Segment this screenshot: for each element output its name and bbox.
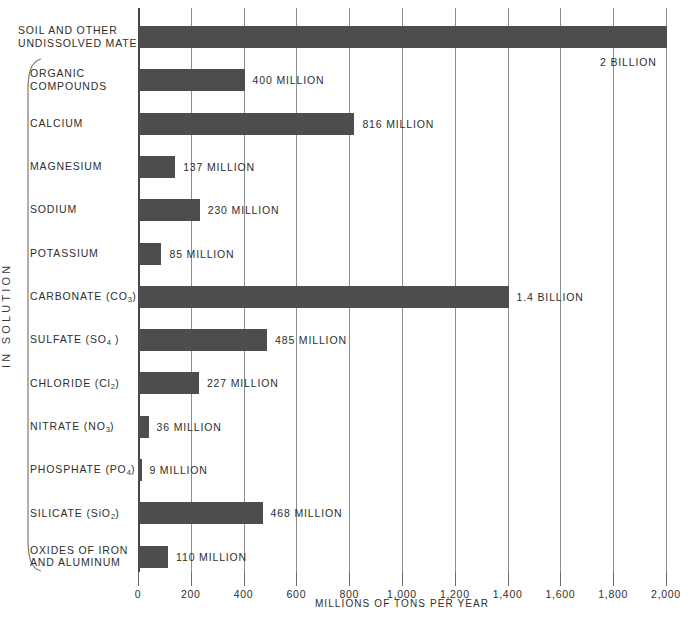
bar (139, 243, 161, 265)
bar (139, 113, 354, 135)
category-label: CARBONATE (CO3) (30, 290, 150, 306)
category-label: PHOSPHATE (PO4) (30, 463, 150, 479)
bar-value-label: 36 MILLION (157, 416, 222, 438)
category-label: SOIL AND OTHERUNDISSOLVED MATERIAL (18, 24, 138, 49)
category-label: SULFATE (SO4 ) (30, 333, 150, 349)
x-tick (191, 572, 192, 586)
x-tick (349, 572, 350, 586)
bar (139, 546, 168, 568)
category-label: CHLORIDE (Cl2) (30, 377, 150, 393)
x-tick (402, 572, 403, 586)
x-tick (508, 572, 509, 586)
bar-value-label: 468 MILLION (271, 502, 343, 524)
gridline-1800 (613, 8, 614, 572)
category-label: MAGNESIUM (30, 160, 150, 173)
bar-value-label: 816 MILLION (362, 113, 434, 135)
category-label: POTASSIUM (30, 247, 150, 260)
bar (139, 372, 199, 394)
bar (139, 156, 175, 178)
bar (139, 69, 245, 91)
x-tick (560, 572, 561, 586)
bar (139, 286, 509, 308)
x-tick (244, 572, 245, 586)
category-label: NITRATE (NO3) (30, 420, 150, 436)
bar-value-label: 85 MILLION (169, 243, 234, 265)
category-label: CALCIUM (30, 117, 150, 130)
bar-value-label: 110 MILLION (176, 546, 247, 568)
bar-value-label: 485 MILLION (275, 329, 347, 351)
bar-value-label: 2 BILLION (600, 51, 657, 73)
bar (139, 329, 267, 351)
x-tick (296, 572, 297, 586)
x-tick (138, 572, 139, 586)
bar (139, 26, 667, 48)
category-label: OXIDES OF IRONAND ALUMINUM (30, 544, 150, 569)
category-label: ORGANICCOMPOUNDS (30, 67, 150, 92)
bar (139, 199, 200, 221)
x-tick (613, 572, 614, 586)
x-tick (666, 572, 667, 586)
bar (139, 459, 142, 481)
gridline-2000 (666, 8, 667, 572)
bar-value-label: 1.4 BILLION (517, 286, 584, 308)
x-axis-title: MILLIONS OF TONS PER YEAR (138, 598, 666, 609)
plot-area: 2 BILLION400 MILLION816 MILLION137 MILLI… (138, 8, 666, 572)
bar-chart: IN SOLUTION SOIL AND OTHERUNDISSOLVED MA… (0, 0, 692, 628)
bar (139, 416, 149, 438)
bar (139, 502, 263, 524)
bar-value-label: 400 MILLION (253, 69, 325, 91)
bar-value-label: 9 MILLION (149, 459, 207, 481)
category-label: SILICATE (SiO2) (30, 507, 150, 523)
x-tick (455, 572, 456, 586)
category-label: SODIUM (30, 203, 150, 216)
bar-value-label: 137 MILLION (183, 156, 255, 178)
bar-value-label: 227 MILLION (207, 372, 279, 394)
category-labels: SOIL AND OTHERUNDISSOLVED MATERIALORGANI… (0, 0, 133, 580)
bar-value-label: 230 MILLION (208, 199, 280, 221)
